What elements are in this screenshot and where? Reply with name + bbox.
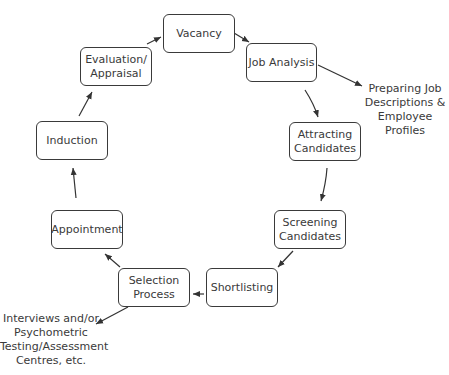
node-job-analysis: Job Analysis (246, 43, 317, 82)
node-appointment: Appointment (51, 210, 123, 249)
node-screening-candidates: Screening Candidates (274, 210, 346, 249)
node-attracting-candidates: Attracting Candidates (289, 122, 361, 161)
node-vacancy: Vacancy (163, 14, 235, 53)
node-shortlisting: Shortlisting (206, 268, 278, 307)
note-selection-methods: Interviews and/or Psychometric Testing/A… (0, 312, 102, 368)
node-induction: Induction (36, 121, 108, 160)
node-evaluation-appraisal: Evaluation/ Appraisal (80, 47, 152, 86)
node-selection-process: Selection Process (118, 268, 190, 307)
note-job-descriptions: Preparing Job Descriptions & Employee Pr… (360, 82, 449, 138)
